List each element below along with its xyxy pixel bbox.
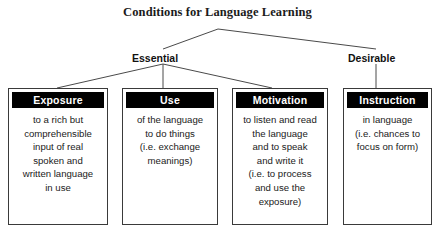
node-body-instruction: in language (i.e. chances to focus on fo…	[344, 113, 431, 154]
node-line: and write it	[237, 154, 323, 168]
node-line: of the language	[127, 113, 213, 127]
node-box-use: Use of the language to do things (i.e. e…	[122, 88, 218, 225]
node-line: in use	[13, 181, 103, 195]
node-header-motivation: Motivation	[236, 92, 324, 108]
node-box-exposure: Exposure to a rich but comprehensible in…	[8, 88, 108, 225]
node-line: in language	[348, 113, 427, 127]
node-line: to listen and read	[237, 113, 323, 127]
node-line: and use the	[237, 181, 323, 195]
node-line: (i.e. to process	[237, 167, 323, 181]
node-header-use: Use	[126, 92, 214, 108]
page-title: Conditions for Language Learning	[0, 5, 435, 20]
node-line: focus on form)	[348, 140, 427, 154]
node-box-motivation: Motivation to listen and read the langua…	[232, 88, 328, 225]
node-line: written language	[13, 167, 103, 181]
node-line: (i.e. chances to	[348, 127, 427, 141]
node-line: the language	[237, 127, 323, 141]
node-line: and to speak	[237, 140, 323, 154]
connector-essential-to-motivation	[163, 64, 272, 88]
node-body-exposure: to a rich but comprehensible input of re…	[9, 113, 107, 195]
node-line: to do things	[127, 127, 213, 141]
node-line: comprehensible	[13, 127, 103, 141]
node-header-instruction: Instruction	[347, 92, 428, 108]
node-body-motivation: to listen and read the language and to s…	[233, 113, 327, 208]
node-line: exposure)	[237, 195, 323, 209]
node-line: spoken and	[13, 154, 103, 168]
connector-root-to-desirable	[218, 29, 376, 49]
branch-label-desirable: Desirable	[348, 52, 395, 64]
connector-essential-to-exposure	[57, 64, 163, 88]
node-box-instruction: Instruction in language (i.e. chances to…	[343, 88, 432, 225]
connector-root-to-essential	[163, 29, 218, 49]
node-header-exposure: Exposure	[12, 92, 104, 108]
node-body-use: of the language to do things (i.e. excha…	[123, 113, 217, 167]
node-line: input of real	[13, 140, 103, 154]
node-line: meanings)	[127, 154, 213, 168]
node-line: to a rich but	[13, 113, 103, 127]
diagram-canvas: Conditions for Language Learning Essenti…	[0, 0, 435, 240]
node-line: (i.e. exchange	[127, 140, 213, 154]
branch-label-essential: Essential	[132, 52, 178, 64]
